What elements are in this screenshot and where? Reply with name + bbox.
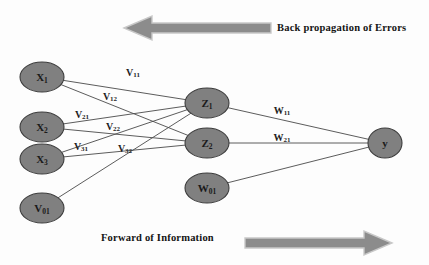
- node-y[interactable]: y: [368, 128, 402, 158]
- node-x3[interactable]: X3: [20, 144, 64, 174]
- diagram-canvas: X1X2X3V01Z1Z2W01y V11V12V21V22V31V32W11W…: [0, 0, 429, 265]
- node-x2[interactable]: X2: [20, 112, 64, 142]
- weight-label-v12: V12: [103, 91, 118, 104]
- forward-information-arrow: [245, 231, 392, 255]
- back-propagation-arrow-shape: [124, 16, 271, 40]
- node-w01[interactable]: W01: [185, 173, 229, 203]
- back-propagation-caption: Back propagation of Errors: [277, 22, 406, 33]
- weight-label-w11: W11: [274, 105, 291, 118]
- weight-label-v11: V11: [126, 67, 140, 80]
- weight-label-w21: W21: [274, 132, 292, 145]
- back-propagation-arrow: [124, 16, 271, 40]
- weight-label-v22: V22: [106, 121, 121, 134]
- weight-label-v21: V21: [75, 109, 90, 122]
- edge-x1-z1: [63, 80, 185, 99]
- node-z1[interactable]: Z1: [185, 88, 229, 118]
- neural-network-svg: X1X2X3V01Z1Z2W01y V11V12V21V22V31V32W11W…: [0, 0, 429, 265]
- node-v01[interactable]: V01: [20, 193, 64, 223]
- edge-w01-y: [228, 147, 369, 183]
- weight-label-layer: V11V12V21V22V31V32W11W21: [74, 67, 291, 156]
- node-x1[interactable]: X1: [20, 62, 64, 92]
- forward-information-arrow-shape: [245, 231, 392, 255]
- node-z2[interactable]: Z2: [185, 128, 229, 158]
- node-y-label: y: [382, 137, 388, 149]
- weight-label-v32: V32: [118, 143, 133, 156]
- edge-z1-y: [228, 108, 369, 140]
- forward-information-caption: Forward of Information: [101, 232, 214, 243]
- weight-label-v31: V31: [74, 141, 89, 154]
